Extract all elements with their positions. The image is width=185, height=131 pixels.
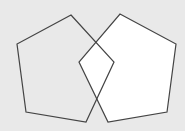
overlapping-pentagons-diagram bbox=[0, 0, 185, 131]
